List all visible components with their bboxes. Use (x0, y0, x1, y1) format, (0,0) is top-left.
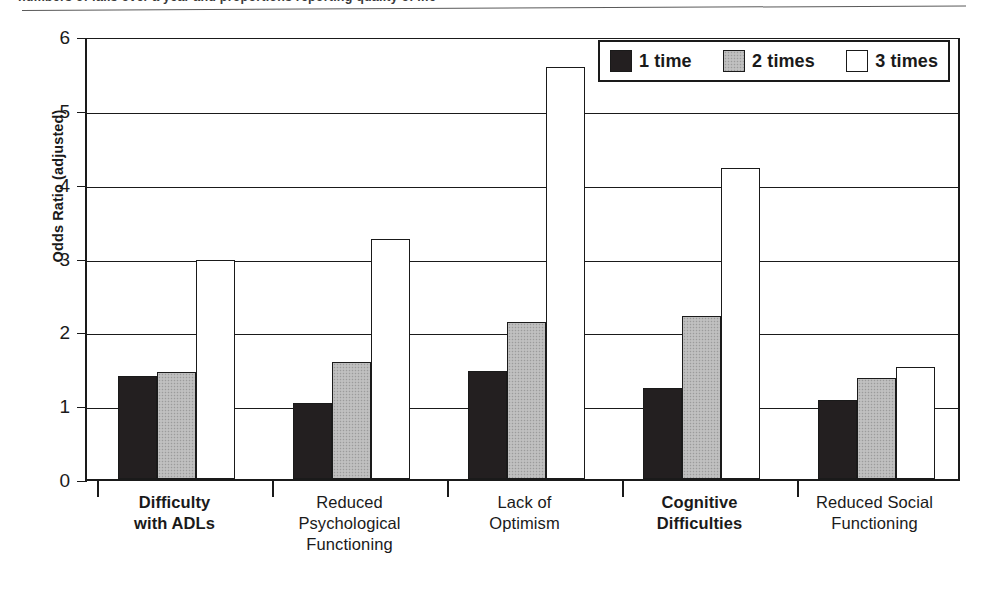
group-label-5-line-1: Reduced Social (775, 492, 975, 513)
legend-entry-3: 3 times (846, 50, 938, 72)
group-label-5-line-2: Functioning (775, 513, 975, 534)
legend-swatch-gray (723, 50, 745, 72)
bar-group5-series1 (818, 400, 857, 479)
plot-area (85, 38, 960, 481)
y-tick-label-3: 3 (30, 250, 70, 269)
group-label-2-line-1: Reduced (250, 492, 450, 513)
y-tick-label-0: 0 (30, 471, 70, 490)
y-tick-label-6: 6 (30, 28, 70, 47)
bar-group2-series3 (371, 239, 410, 479)
legend-entry-1: 1 time (610, 50, 692, 72)
bar-group4-series3 (721, 168, 760, 479)
y-tick-label-2: 2 (30, 323, 70, 342)
group-label-2-line-3: Functioning (250, 534, 450, 555)
bar-group3-series1 (468, 371, 507, 479)
bar-group3-series3 (546, 67, 585, 479)
group-label-5: Reduced SocialFunctioning (775, 492, 975, 534)
legend-swatch-black (610, 50, 632, 72)
y-tick-label-5: 5 (30, 102, 70, 121)
bar-group1-series3 (196, 260, 235, 479)
bar-group1-series2 (157, 372, 196, 479)
legend-entry-2: 2 times (723, 50, 815, 72)
bar-group2-series1 (293, 403, 332, 479)
bar-group4-series2 (682, 316, 721, 479)
legend-swatch-white (846, 50, 868, 72)
gridline-4 (87, 187, 958, 188)
legend-label-1: 1 time (639, 51, 692, 72)
y-tick-label-1: 1 (30, 397, 70, 416)
bar-group4-series1 (643, 388, 682, 479)
bar-group2-series2 (332, 362, 371, 479)
chart-legend: 1 time2 times3 times (598, 40, 950, 82)
legend-entries: 1 time2 times3 times (610, 50, 938, 72)
legend-label-3: 3 times (875, 51, 938, 72)
group-label-1: Difficultywith ADLs (75, 492, 275, 534)
group-label-2-line-2: Psychological (250, 513, 450, 534)
y-tick-label-4: 4 (30, 176, 70, 195)
group-label-4-line-1: Cognitive (600, 492, 800, 513)
bar-chart-figure: Odds Ratio (adjusted) 0123456 Difficulty… (0, 0, 988, 593)
bar-group1-series1 (118, 376, 157, 479)
group-label-1-line-2: with ADLs (75, 513, 275, 534)
bar-group5-series3 (896, 367, 935, 479)
group-label-1-line-1: Difficulty (75, 492, 275, 513)
group-label-4-line-2: Difficulties (600, 513, 800, 534)
group-label-3-line-1: Lack of (425, 492, 625, 513)
bar-group3-series2 (507, 322, 546, 479)
gridline-5 (87, 113, 958, 114)
group-label-3: Lack ofOptimism (425, 492, 625, 534)
legend-label-2: 2 times (752, 51, 815, 72)
bar-group5-series2 (857, 378, 896, 479)
group-label-4: CognitiveDifficulties (600, 492, 800, 534)
group-label-3-line-2: Optimism (425, 513, 625, 534)
y-tick-mark-0 (77, 481, 87, 482)
group-label-2: ReducedPsychologicalFunctioning (250, 492, 450, 555)
